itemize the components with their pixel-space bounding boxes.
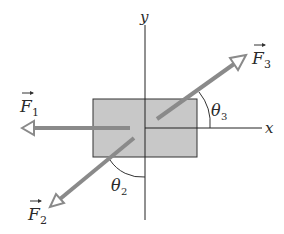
label-theta2: θ 2: [111, 176, 127, 197]
svg-text:θ: θ: [111, 176, 121, 195]
angle-arc-theta2: [110, 160, 145, 177]
svg-text:2: 2: [40, 214, 47, 227]
label-theta3: θ 3: [211, 101, 227, 122]
svg-text:3: 3: [264, 58, 271, 71]
svg-text:F: F: [251, 48, 265, 68]
force-arrow-f3: [157, 55, 246, 119]
label-f3: F 3: [251, 43, 271, 71]
svg-text:3: 3: [221, 111, 227, 122]
svg-text:F: F: [27, 204, 41, 224]
svg-text:2: 2: [121, 186, 127, 197]
angle-arc-theta3: [199, 92, 210, 128]
x-axis-label: x: [265, 119, 274, 137]
force-diagram: y x F 1 F 2 F 3 θ 2 θ 3: [0, 0, 284, 234]
label-f2: F 2: [27, 199, 47, 227]
y-axis-label: y: [139, 8, 149, 26]
label-f1: F 1: [19, 91, 39, 119]
svg-text:1: 1: [32, 106, 39, 119]
svg-text:θ: θ: [211, 101, 221, 120]
svg-text:F: F: [19, 96, 33, 116]
